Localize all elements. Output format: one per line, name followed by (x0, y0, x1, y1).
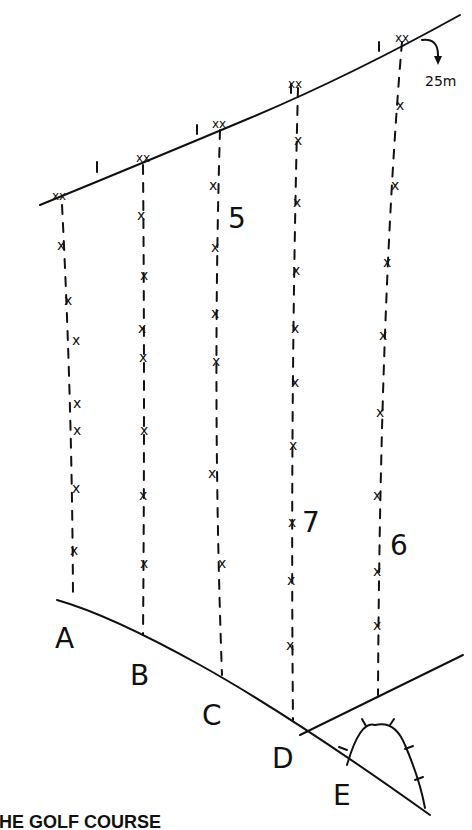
svg-text:x: x (140, 422, 148, 438)
svg-text:x: x (293, 194, 301, 210)
column-a: xx xxx xxx x (52, 189, 81, 595)
svg-text:x: x (137, 207, 145, 223)
svg-text:x: x (208, 465, 216, 481)
svg-text:x: x (73, 422, 81, 438)
svg-text:x: x (287, 572, 295, 588)
svg-text:x: x (140, 555, 148, 571)
column-e: xx xxx xxx xx (373, 31, 409, 695)
svg-text:x: x (391, 177, 399, 193)
svg-text:x: x (212, 353, 220, 369)
svg-text:x: x (286, 637, 294, 653)
golf-course-diagram: xx xxx xxx x xx xxx xxx x xx xxx xxx xx … (0, 0, 472, 830)
number-5: 5 (228, 202, 246, 235)
svg-text:x: x (218, 555, 226, 571)
svg-text:x: x (64, 292, 72, 308)
svg-text:x: x (373, 487, 381, 503)
label-a: A (55, 622, 74, 655)
svg-text:x: x (373, 563, 381, 579)
column-d: xx xxx xxx xxx (286, 77, 302, 720)
right-branch-line (300, 655, 463, 735)
svg-text:x: x (140, 267, 148, 283)
tee-marker: xx (395, 31, 409, 45)
svg-text:x: x (288, 514, 296, 530)
scale-label: 25m (425, 73, 456, 89)
number-6: 6 (390, 529, 408, 562)
svg-text:x: x (72, 480, 80, 496)
tee-marker: xx (288, 77, 302, 91)
svg-text:x: x (139, 349, 147, 365)
tee-marker: xx (212, 117, 226, 131)
svg-text:x: x (73, 395, 81, 411)
svg-text:x: x (379, 327, 387, 343)
svg-text:x: x (139, 487, 147, 503)
column-b: xx xxx xxx x (136, 151, 150, 635)
label-c: C (202, 699, 222, 732)
svg-text:x: x (291, 374, 299, 390)
label-b: B (130, 659, 149, 692)
svg-text:x: x (138, 320, 146, 336)
label-e: E (333, 779, 351, 812)
svg-text:x: x (373, 617, 381, 633)
svg-text:x: x (376, 404, 384, 420)
tee-marker: xx (52, 189, 66, 203)
label-d: D (272, 742, 294, 775)
column-c: xx xxx xxx (208, 117, 226, 675)
svg-text:x: x (396, 97, 404, 113)
svg-text:x: x (294, 132, 302, 148)
svg-text:x: x (209, 177, 217, 193)
svg-text:x: x (383, 254, 391, 270)
svg-text:x: x (57, 237, 65, 253)
arrow-head-icon (434, 56, 442, 65)
number-7: 7 (302, 506, 320, 539)
svg-text:x: x (292, 262, 300, 278)
svg-text:x: x (70, 542, 78, 558)
diagram-title: THE GOLF COURSE (0, 812, 161, 830)
svg-text:x: x (72, 332, 80, 348)
svg-text:x: x (211, 239, 219, 255)
svg-text:x: x (211, 305, 219, 321)
svg-text:x: x (289, 437, 297, 453)
tee-marker: xx (136, 151, 150, 165)
svg-text:x: x (291, 320, 299, 336)
